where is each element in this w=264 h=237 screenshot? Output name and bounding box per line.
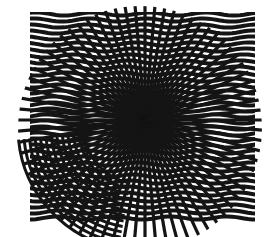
op-art-moire-image	[0, 0, 264, 237]
